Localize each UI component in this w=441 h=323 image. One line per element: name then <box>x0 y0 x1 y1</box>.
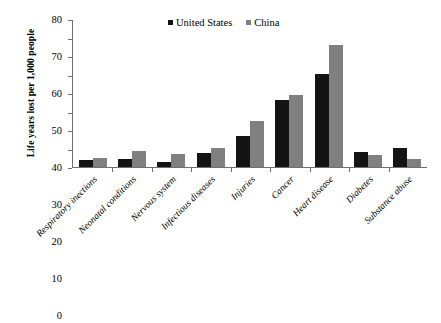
bar-china[interactable] <box>407 159 421 167</box>
x-axis-tick <box>310 168 311 172</box>
bar-group <box>191 20 230 167</box>
y-axis-tick-label: 50 <box>52 126 63 137</box>
legend-label: United States <box>176 17 232 28</box>
y-axis-tick: 40 <box>68 94 72 95</box>
bar-china[interactable] <box>329 45 343 167</box>
bar-china[interactable] <box>171 154 185 167</box>
y-axis-tick: 80 <box>68 20 72 21</box>
chart-legend: United StatesChina <box>168 17 279 28</box>
y-axis-tick-label: 40 <box>52 163 63 174</box>
bar-united-states[interactable] <box>118 159 132 167</box>
bar-group <box>309 20 348 167</box>
bar-group <box>270 20 309 167</box>
legend-item-united-states[interactable]: United States <box>168 17 232 28</box>
bar-china[interactable] <box>132 151 146 167</box>
y-axis-tick-label: 0 <box>57 311 62 322</box>
bar-united-states[interactable] <box>79 160 93 167</box>
bar-group <box>112 20 151 167</box>
y-axis-tick: 70 <box>68 39 72 40</box>
y-axis-tick: 10 <box>68 150 72 151</box>
legend-swatch-icon <box>168 20 173 25</box>
bar-united-states[interactable] <box>315 74 329 167</box>
y-axis-tick-label: 70 <box>52 52 63 63</box>
bar-china[interactable] <box>368 155 382 167</box>
bar-group <box>230 20 269 167</box>
x-axis-tick <box>231 168 232 172</box>
legend-label: China <box>254 17 279 28</box>
x-axis-tick <box>389 168 390 172</box>
bar-group <box>388 20 427 167</box>
bar-united-states[interactable] <box>197 153 211 167</box>
y-axis-tick: 50 <box>68 76 72 77</box>
plot-area: 01020304050607080 <box>72 20 427 168</box>
x-axis-tick <box>349 168 350 172</box>
y-axis-tick-label: 80 <box>52 15 63 26</box>
bar-china[interactable] <box>250 121 264 167</box>
y-axis-title: Life years lost per 1,000 people <box>26 8 36 178</box>
x-axis-tick <box>191 168 192 172</box>
x-axis-ticks <box>73 168 427 172</box>
y-axis-tick: 20 <box>68 131 72 132</box>
bar-groups <box>73 20 427 167</box>
bar-united-states[interactable] <box>157 162 171 167</box>
bar-group <box>152 20 191 167</box>
legend-swatch-icon <box>246 20 251 25</box>
bar-united-states[interactable] <box>354 152 368 167</box>
bar-united-states[interactable] <box>236 136 250 167</box>
y-axis-tick: 30 <box>68 113 72 114</box>
bar-group <box>73 20 112 167</box>
bar-united-states[interactable] <box>275 100 289 167</box>
bar-china[interactable] <box>93 158 107 167</box>
x-axis-tick <box>112 168 113 172</box>
x-axis-labels: Respiratory inectionsNeonatal conditions… <box>72 174 427 269</box>
y-axis-tick: 0 <box>68 168 72 169</box>
bar-group <box>348 20 387 167</box>
bar-china[interactable] <box>289 95 303 167</box>
bar-china[interactable] <box>211 148 225 167</box>
y-axis-tick-label: 60 <box>52 89 63 100</box>
x-axis-tick <box>270 168 271 172</box>
legend-item-china[interactable]: China <box>246 17 279 28</box>
x-axis-tick <box>152 168 153 172</box>
y-axis-tick: 60 <box>68 57 72 58</box>
bar-united-states[interactable] <box>393 148 407 167</box>
